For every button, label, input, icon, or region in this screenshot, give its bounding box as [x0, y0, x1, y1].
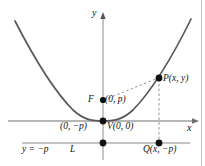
directrix-equation-label: y = −p [22, 145, 49, 155]
point-q-label: Q(x, −p) [143, 145, 176, 155]
point-p-label: P(x, y) [163, 74, 188, 84]
point-directrix-intercept-marker [100, 140, 107, 147]
focus-letter-label: F [88, 95, 94, 105]
point-p-marker [156, 75, 163, 82]
y-axis-label: y [92, 8, 96, 18]
directrix-intercept-label: (0, −p) [60, 122, 87, 132]
parabola-figure: y x P(x, y) F (0, p) V(0, 0) (0, −p) y =… [0, 0, 205, 166]
x-axis-label: x [187, 123, 191, 133]
directrix-name-label: L [70, 145, 75, 155]
point-vertex-marker [100, 118, 107, 125]
y-axis [100, 12, 105, 160]
focus-coordinates-label: (0, p) [105, 95, 126, 105]
vertex-label: V(0, 0) [107, 122, 133, 132]
